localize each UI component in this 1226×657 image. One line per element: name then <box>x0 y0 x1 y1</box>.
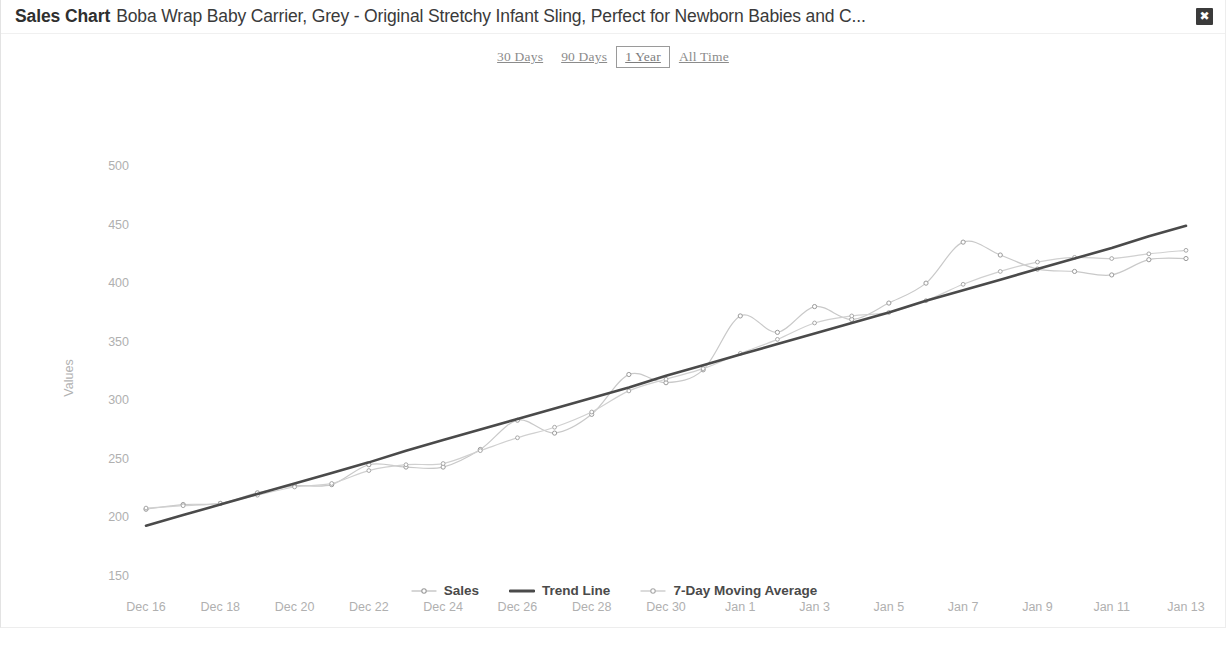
tab-30-days[interactable]: 30 Days <box>488 46 552 68</box>
x-axis-tick-label: Dec 20 <box>275 600 315 614</box>
x-axis-tick-label: Dec 30 <box>646 600 686 614</box>
legend-label-moving-average: 7-Day Moving Average <box>673 583 817 598</box>
tab-1-year[interactable]: 1 Year <box>616 46 670 68</box>
legend-item-trend-line[interactable]: Trend Line <box>509 583 610 598</box>
legend-item-sales[interactable]: Sales <box>411 583 479 598</box>
close-icon[interactable]: ✖ <box>1196 8 1213 25</box>
page-title: Sales Chart <box>15 6 110 27</box>
legend-swatch-sales <box>411 585 437 597</box>
chart-legend: Sales Trend Line 7-Day Moving Average <box>1 583 1226 598</box>
x-axis-tick-label: Jan 1 <box>725 600 756 614</box>
x-axis-tick-label: Dec 22 <box>349 600 389 614</box>
series-7-day-moving-average <box>144 248 1188 510</box>
x-axis-tick-label: Jan 7 <box>948 600 979 614</box>
y-axis-tick-label: 200 <box>108 510 129 524</box>
x-axis-tick-label: Jan 5 <box>874 600 905 614</box>
legend-label-trend-line: Trend Line <box>542 583 610 598</box>
tab-all-time[interactable]: All Time <box>670 46 738 68</box>
legend-label-sales: Sales <box>444 583 479 598</box>
x-axis-tick-label: Jan 3 <box>799 600 830 614</box>
y-axis-tick-label: 150 <box>108 569 129 583</box>
x-axis-tick-label: Dec 24 <box>423 600 463 614</box>
sales-line-chart: 150200250300350400450500ValuesDec 16Dec … <box>1 68 1226 628</box>
modal-header: Sales Chart Boba Wrap Baby Carrier, Grey… <box>1 0 1225 34</box>
sales-chart-modal: Sales Chart Boba Wrap Baby Carrier, Grey… <box>0 0 1226 628</box>
x-axis-tick-label: Dec 26 <box>498 600 538 614</box>
y-axis-tick-label: 250 <box>108 452 129 466</box>
legend-swatch-trend-line <box>509 585 535 597</box>
legend-item-moving-average[interactable]: 7-Day Moving Average <box>640 583 817 598</box>
x-axis-tick-label: Jan 9 <box>1022 600 1053 614</box>
product-name-subtitle: Boba Wrap Baby Carrier, Grey - Original … <box>116 6 865 27</box>
y-axis-tick-label: 400 <box>108 276 129 290</box>
x-axis-tick-label: Jan 11 <box>1093 600 1130 614</box>
tab-90-days[interactable]: 90 Days <box>552 46 616 68</box>
x-axis-tick-label: Dec 18 <box>200 600 240 614</box>
chart-container: 150200250300350400450500ValuesDec 16Dec … <box>1 68 1226 608</box>
y-axis-tick-label: 300 <box>108 393 129 407</box>
legend-swatch-moving-average <box>640 585 666 597</box>
x-axis-tick-label: Jan 13 <box>1167 600 1205 614</box>
y-axis-tick-label: 500 <box>108 159 129 173</box>
series-trend-line <box>146 226 1186 526</box>
y-axis-tick-label: 450 <box>108 218 129 232</box>
x-axis-tick-label: Dec 16 <box>126 600 166 614</box>
y-axis-title: Values <box>62 359 76 396</box>
x-axis-tick-label: Dec 28 <box>572 600 612 614</box>
y-axis-tick-label: 350 <box>108 335 129 349</box>
date-range-tabs: 30 Days 90 Days 1 Year All Time <box>1 46 1225 68</box>
